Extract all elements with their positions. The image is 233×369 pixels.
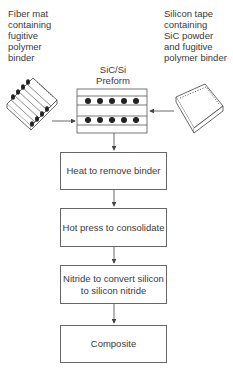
step-label: Composite xyxy=(91,338,136,350)
fiber-mat-icon xyxy=(7,78,57,130)
preform-icon xyxy=(77,89,147,133)
step-heat-remove-binder: Heat to remove binder xyxy=(60,152,167,190)
silicon-tape-icon xyxy=(176,84,223,133)
step-label: Hot press to consolidate xyxy=(63,222,165,234)
step-nitride: Nitride to convert silicon to silicon ni… xyxy=(60,265,167,304)
step-hot-press: Hot press to consolidate xyxy=(60,208,167,247)
step-label: Heat to remove binder xyxy=(67,165,161,177)
step-composite: Composite xyxy=(60,325,167,363)
step-label: Nitride to convert silicon to silicon ni… xyxy=(63,273,164,297)
